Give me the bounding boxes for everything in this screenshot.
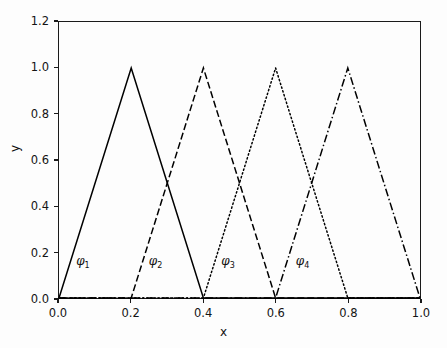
y-tick-mark	[54, 159, 58, 160]
plot-axes	[58, 21, 421, 299]
curve-label-phi_1: φ1	[76, 254, 90, 270]
x-axis-label: x	[0, 325, 447, 339]
curve-label-phi_4: φ4	[296, 254, 310, 270]
y-tick-mark	[54, 67, 58, 68]
curve-label-subscript: 2	[157, 261, 162, 270]
curve-label-subscript: 1	[85, 261, 90, 270]
series-group	[59, 68, 420, 298]
curve-label-symbol: φ	[221, 254, 229, 268]
x-tick-label: 1.0	[412, 306, 430, 320]
y-tick-mark	[54, 113, 58, 114]
curve-label-symbol: φ	[149, 254, 157, 268]
curve-label-subscript: 4	[304, 261, 309, 270]
x-tick-mark	[348, 299, 349, 303]
x-tick-label: 0.6	[267, 306, 285, 320]
curve-label-subscript: 3	[230, 261, 235, 270]
x-tick-mark	[130, 299, 131, 303]
y-tick-mark	[54, 206, 58, 207]
y-tick-label: 0.4	[0, 199, 49, 213]
x-tick-mark	[203, 299, 204, 303]
y-axis-label: y	[8, 145, 22, 152]
y-tick-label: 1.0	[0, 60, 49, 74]
y-tick-label: 0.8	[0, 107, 49, 121]
x-tick-label: 0.4	[194, 306, 212, 320]
plot-lines-svg	[59, 22, 420, 298]
curve-label-symbol: φ	[76, 254, 84, 268]
x-tick-mark	[275, 299, 276, 303]
series-line-phi_2	[59, 68, 420, 298]
y-tick-label: 0.6	[0, 153, 49, 167]
y-tick-label: 1.2	[0, 14, 49, 28]
x-tick-mark	[57, 299, 58, 303]
x-tick-label: 0.2	[121, 306, 139, 320]
y-tick-label: 0.2	[0, 246, 49, 260]
matplotlib-figure: 0.00.20.40.60.81.01.2 0.00.20.40.60.81.0…	[0, 0, 447, 348]
x-tick-mark	[420, 299, 421, 303]
y-tick-mark	[54, 20, 58, 21]
curve-label-symbol: φ	[296, 254, 304, 268]
y-tick-mark	[54, 252, 58, 253]
x-tick-label: 0.8	[339, 306, 357, 320]
y-tick-label: 0.0	[0, 292, 49, 306]
curve-label-phi_2: φ2	[149, 254, 163, 270]
curve-label-phi_3: φ3	[221, 254, 235, 270]
x-tick-label: 0.0	[49, 306, 67, 320]
